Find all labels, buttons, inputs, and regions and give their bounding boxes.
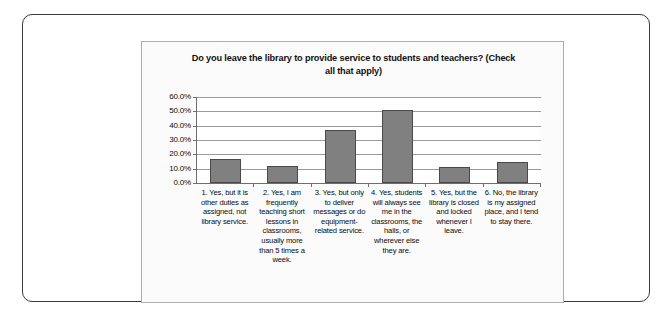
- bar[interactable]: [497, 162, 528, 184]
- x-axis-category-label: 6. No, the library is my assigned place,…: [483, 188, 540, 265]
- bar-slot: [197, 97, 254, 183]
- x-axis-tick-mark: [368, 183, 369, 187]
- x-axis-tick-mark: [253, 183, 254, 187]
- x-axis-category-label: 3. Yes, but only to deliver messages or …: [311, 188, 368, 265]
- x-axis-category-label: 2. Yes, I am frequently teaching short l…: [253, 188, 310, 265]
- bar-series: [197, 97, 541, 183]
- x-axis-category-label: 1. Yes, but it is other duties as assign…: [196, 188, 253, 265]
- y-axis-tick-mark: [193, 111, 197, 112]
- bar[interactable]: [210, 159, 241, 183]
- y-axis-tick-label: 10.0%: [169, 165, 191, 173]
- x-axis-tick-mark: [540, 183, 541, 187]
- bar[interactable]: [382, 110, 413, 183]
- x-axis-tick-mark: [311, 183, 312, 187]
- bar-slot: [426, 97, 483, 183]
- x-axis-category-label: 4. Yes, students will always see me in t…: [368, 188, 425, 265]
- y-axis-tick-label: 50.0%: [169, 107, 191, 115]
- x-axis-tick-mark: [425, 183, 426, 187]
- y-axis-tick-label: 20.0%: [169, 150, 191, 158]
- plot-area: [196, 97, 541, 184]
- y-axis-tick-mark: [193, 154, 197, 155]
- bar-slot: [484, 97, 541, 183]
- screenshot-root: Do you leave the library to provide serv…: [0, 0, 672, 319]
- bar-slot: [254, 97, 311, 183]
- chart-title: Do you leave the library to provide serv…: [158, 52, 549, 77]
- plot-wrapper: 0.0%10.0%20.0%30.0%40.0%50.0%60.0% 1. Ye…: [142, 97, 564, 297]
- bar[interactable]: [325, 130, 356, 183]
- document-outer-frame: Do you leave the library to provide serv…: [22, 14, 650, 302]
- y-axis-tick-label: 30.0%: [169, 136, 191, 144]
- bar[interactable]: [267, 166, 298, 183]
- y-axis-tick-label: 0.0%: [174, 179, 191, 187]
- x-axis-labels: 1. Yes, but it is other duties as assign…: [196, 188, 540, 265]
- x-axis-category-label: 5. Yes, but the library is closed and lo…: [425, 188, 482, 265]
- y-axis-tick-label: 60.0%: [169, 93, 191, 101]
- x-axis-tick-mark: [483, 183, 484, 187]
- bar-slot: [369, 97, 426, 183]
- chart-title-line-1: Do you leave the library to provide serv…: [158, 52, 549, 65]
- y-axis: 0.0%10.0%20.0%30.0%40.0%50.0%60.0%: [142, 97, 194, 183]
- y-axis-tick-label: 40.0%: [169, 122, 191, 130]
- y-axis-tick-mark: [193, 97, 197, 98]
- y-axis-tick-mark: [193, 169, 197, 170]
- bar-slot: [312, 97, 369, 183]
- chart-container: Do you leave the library to provide serv…: [141, 41, 564, 303]
- y-axis-tick-mark: [193, 126, 197, 127]
- y-axis-tick-mark: [193, 140, 197, 141]
- bar[interactable]: [439, 167, 470, 183]
- y-axis-tick-mark: [193, 183, 197, 184]
- chart-title-line-2: all that apply): [158, 65, 549, 78]
